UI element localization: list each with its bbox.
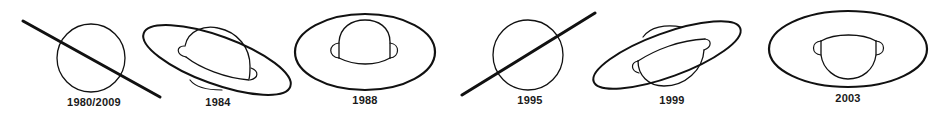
label-1980-2009: 1980/2009: [67, 96, 121, 108]
planet-globe-top: [643, 26, 682, 37]
planet-lobe-right: [876, 41, 884, 55]
ring-edge-line: [462, 13, 595, 95]
label-1999: 1999: [659, 94, 684, 106]
planet-globe-top: [339, 20, 390, 58]
saturn-2003-figure: [769, 11, 927, 87]
planet-lobe-right: [704, 39, 710, 50]
label-2003: 2003: [835, 92, 860, 104]
planet-lobe-left: [178, 46, 186, 57]
saturn-1984-figure: [135, 11, 298, 109]
ring-edge-line: [23, 21, 160, 97]
ring-outer: [769, 11, 927, 87]
label-1984: 1984: [205, 96, 230, 108]
ring-outer: [295, 14, 435, 90]
ring-outer: [135, 11, 298, 109]
planet-lobe-right: [390, 43, 398, 58]
saturn-1999-figure: [586, 8, 748, 103]
label-1988: 1988: [352, 94, 377, 106]
saturn-1980-2009-figure: [23, 21, 160, 97]
saturn-ring-phase-diagram: 1980/2009 1984 1988 1995 1999 2003: [0, 0, 948, 117]
ring-inner-edge: [339, 58, 390, 64]
ring-outer: [586, 8, 748, 103]
planet-lobe-right: [250, 68, 257, 80]
ring-inner-edge: [821, 35, 876, 41]
planet-lobe-left: [814, 41, 822, 55]
planet-globe-bottom: [821, 41, 876, 79]
label-1995: 1995: [517, 94, 542, 106]
saturn-1995-figure: [462, 13, 595, 95]
ring-inner-edge: [638, 39, 705, 61]
planet-lobe-left: [331, 43, 339, 58]
saturn-1988-figure: [295, 14, 435, 90]
